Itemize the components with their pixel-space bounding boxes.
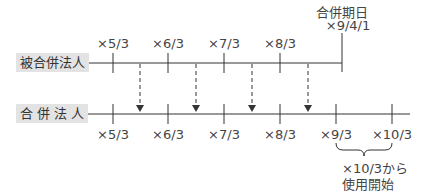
- absorbed-tick-label: ×6/3: [152, 36, 184, 51]
- surviving-tick-label: ×6/3: [152, 127, 184, 142]
- absorbed-tick-label: ×8/3: [264, 36, 296, 51]
- usage-start-note-line2: 使用開始: [342, 174, 394, 193]
- absorbed-tick-label: ×7/3: [208, 36, 240, 51]
- surviving-tick-label: ×5/3: [97, 127, 129, 142]
- surviving-tick-label: ×7/3: [208, 127, 240, 142]
- merger-date-value: ×9/4/1: [326, 18, 370, 33]
- surviving-company-label: 合 併 法 人: [16, 104, 88, 123]
- surviving-tick-label: ×9/3: [320, 127, 352, 142]
- absorbed-tick-label: ×5/3: [97, 36, 129, 51]
- absorbed-company-label: 被合併法人: [16, 53, 89, 72]
- surviving-tick-label: ×8/3: [264, 127, 296, 142]
- surviving-tick-label: ×10/3: [372, 127, 412, 142]
- brace-icon: [336, 143, 392, 156]
